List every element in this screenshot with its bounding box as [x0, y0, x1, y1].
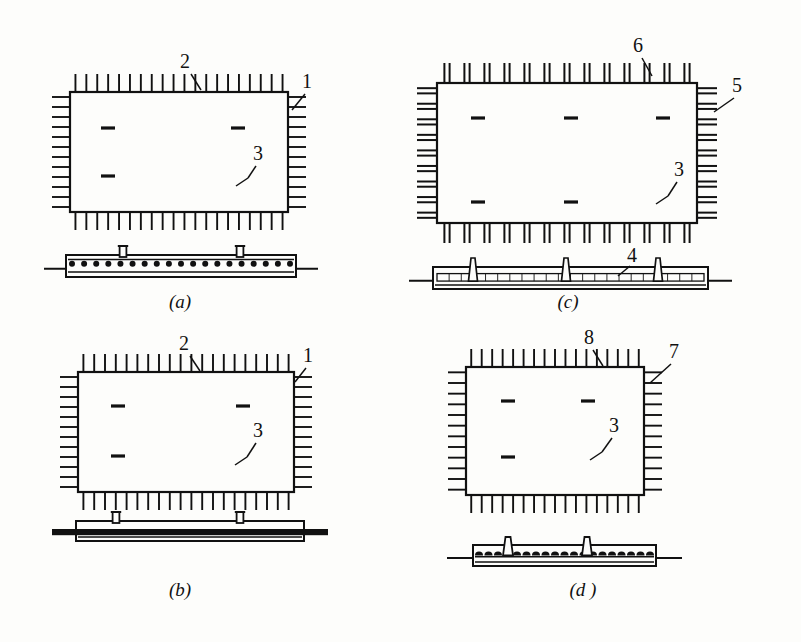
- rebar-dot: [190, 261, 196, 267]
- plan-tick: [697, 182, 717, 187]
- callout-number: 2: [179, 332, 189, 354]
- plan-tick: [417, 213, 437, 218]
- plan-view: [52, 74, 306, 230]
- plan-tick: [417, 119, 437, 124]
- section-stud: [235, 246, 245, 257]
- callout-2: 2: [180, 50, 201, 90]
- callout-number: 3: [609, 414, 619, 436]
- plan-tick: [417, 135, 437, 140]
- plan-view: [60, 354, 312, 510]
- panel-caption-c: (c): [557, 291, 578, 313]
- plan-tick: [697, 213, 717, 218]
- section-view: [409, 258, 732, 289]
- leader-line: [714, 98, 734, 112]
- leader-line: [593, 350, 603, 366]
- plan-tick: [417, 88, 437, 93]
- panel-d: 873(d ): [447, 326, 682, 601]
- rebar-dot: [154, 261, 160, 267]
- plan-tick: [664, 223, 669, 243]
- stud-body: [562, 258, 571, 281]
- section-stud: [469, 258, 478, 281]
- solid-bar: [52, 529, 328, 535]
- callout-3: 3: [235, 419, 263, 465]
- section-stud: [111, 512, 121, 523]
- plan-tick: [624, 63, 629, 83]
- rebar-dot: [166, 261, 172, 267]
- plan-tick: [697, 104, 717, 109]
- rebar-dot: [263, 261, 269, 267]
- panel-caption-a: (a): [169, 291, 191, 313]
- figure-canvas: 213(a)213(b)6534(c)873(d ): [0, 0, 801, 642]
- rebar-dot: [117, 261, 123, 267]
- stud-body: [469, 258, 478, 281]
- plan-tick: [417, 150, 437, 155]
- callout-number: 1: [302, 70, 312, 92]
- leader-line: [295, 368, 306, 382]
- plan-tick: [544, 223, 549, 243]
- callout-number: 7: [669, 340, 679, 362]
- plan-tick: [524, 223, 529, 243]
- panel-c: 6534(c): [409, 34, 742, 313]
- plan-tick: [697, 135, 717, 140]
- plan-tick: [484, 63, 489, 83]
- panel-caption-b: (b): [169, 579, 191, 601]
- panel-caption-d: (d ): [570, 579, 597, 601]
- plan-tick: [697, 119, 717, 124]
- section-stud: [562, 258, 571, 281]
- callout-number: 1: [303, 344, 313, 366]
- stud-body: [582, 537, 592, 556]
- section-stud: [235, 512, 245, 523]
- rebar-dot: [178, 261, 184, 267]
- leader-line: [247, 443, 256, 457]
- plan-tick: [584, 223, 589, 243]
- stud-body: [503, 537, 513, 556]
- plan-tick: [697, 150, 717, 155]
- plan-tick: [464, 223, 469, 243]
- leader-line: [602, 438, 612, 452]
- callout-3: 3: [236, 142, 263, 186]
- stud-body: [113, 512, 120, 523]
- plan-view: [448, 349, 662, 513]
- leader-line: [668, 182, 677, 196]
- rebar-dot: [130, 261, 136, 267]
- rebar-dot: [287, 261, 293, 267]
- section-stud: [654, 258, 663, 281]
- leader-kink: [236, 178, 248, 186]
- plan-tick: [564, 63, 569, 83]
- plan-tick: [697, 197, 717, 202]
- stud-body: [654, 258, 663, 281]
- section-stud: [582, 537, 592, 556]
- plan-tick: [564, 223, 569, 243]
- callout-number: 5: [732, 74, 742, 96]
- plan-tick: [604, 223, 609, 243]
- stud-body: [237, 246, 244, 257]
- callout-number: 3: [674, 158, 684, 180]
- section-stud: [118, 246, 128, 257]
- section-view: [52, 512, 328, 541]
- leader-kink: [656, 196, 668, 204]
- section-view: [447, 537, 682, 566]
- plan-tick: [664, 63, 669, 83]
- plan-tick: [697, 88, 717, 93]
- rebar-dot: [214, 261, 220, 267]
- plan-tick: [417, 104, 437, 109]
- rebar-dot: [142, 261, 148, 267]
- callout-number: 4: [627, 244, 637, 266]
- plan-tick: [684, 63, 689, 83]
- panel-a: 213(a): [44, 50, 318, 313]
- plan-tick: [417, 197, 437, 202]
- plan-tick: [484, 223, 489, 243]
- rebar-dot: [251, 261, 257, 267]
- rebar-dot: [81, 261, 87, 267]
- plan-tick: [604, 63, 609, 83]
- rebar-dot: [202, 261, 208, 267]
- leader-line: [248, 166, 256, 178]
- rebar-dot: [93, 261, 99, 267]
- callout-6: 6: [633, 34, 652, 76]
- plan-tick: [444, 63, 449, 83]
- callout-number: 3: [253, 142, 263, 164]
- plan-tick: [684, 223, 689, 243]
- rebar-dot: [105, 261, 111, 267]
- technical-figure: 213(a)213(b)6534(c)873(d ): [0, 0, 801, 642]
- plan-tick: [417, 166, 437, 171]
